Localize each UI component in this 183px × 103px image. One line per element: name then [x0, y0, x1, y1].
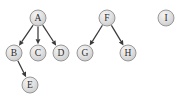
graph-node-i[interactable]: I	[158, 10, 174, 26]
graph-node-f[interactable]: F	[99, 10, 115, 26]
graph-node-c[interactable]: C	[30, 45, 46, 61]
graph-node-g[interactable]: G	[77, 45, 93, 61]
graph-node-d[interactable]: D	[53, 45, 69, 61]
graph-node-e[interactable]: E	[22, 77, 38, 93]
node-label-i: I	[164, 13, 167, 23]
graph-node-h[interactable]: H	[120, 45, 136, 61]
node-label-b: B	[11, 48, 17, 58]
node-label-g: G	[82, 48, 89, 58]
graph-diagram: ABCDEFGHI	[0, 0, 183, 103]
node-label-f: F	[104, 13, 109, 23]
node-label-a: A	[35, 13, 42, 23]
graph-node-a[interactable]: A	[30, 10, 46, 26]
node-label-h: H	[125, 48, 132, 58]
node-label-d: D	[58, 48, 65, 58]
graph-node-b[interactable]: B	[6, 45, 22, 61]
node-label-c: C	[35, 48, 41, 58]
node-label-e: E	[27, 80, 33, 90]
